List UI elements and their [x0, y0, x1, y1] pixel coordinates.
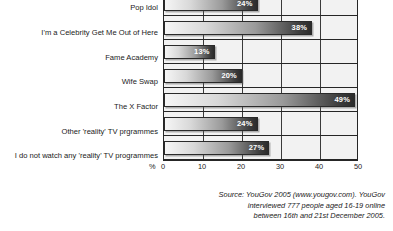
- source-note-line-1: Source: YouGov 2005 (www.yougov.com). Yo…: [155, 190, 385, 201]
- source-note-line-2: interviewed 777 people aged 16-19 online: [155, 201, 385, 212]
- x-tick-0: 0: [161, 163, 165, 170]
- category-label-fame-academy: Fame Academy: [105, 54, 158, 62]
- axis-unit-label: %: [149, 163, 156, 170]
- bar-value-other-reality-tv: 24%: [237, 120, 257, 128]
- bar-other-reality-tv: 24%: [164, 117, 258, 131]
- bar-im-a-celebrity: 38%: [164, 21, 312, 35]
- bar-the-x-factor: 49%: [164, 93, 355, 107]
- category-label-pop-idol: Pop Idol: [130, 4, 158, 12]
- category-label-the-x-factor: The X Factor: [114, 103, 158, 111]
- bar-wife-swap: 20%: [164, 69, 242, 83]
- row-separator: [164, 135, 357, 136]
- bar-value-fame-academy: 13%: [194, 48, 214, 56]
- source-note-line-3: between 16th and 21st December 2005.: [155, 211, 385, 222]
- category-label-wife-swap: Wife Swap: [122, 78, 158, 86]
- x-tick-50: 50: [354, 163, 362, 170]
- row-separator: [164, 87, 357, 88]
- row-separator: [164, 63, 357, 64]
- category-axis: Pop Idol I'm a Celebrity Get Me Out of H…: [0, 0, 163, 169]
- bar-do-not-watch: 27%: [164, 141, 269, 155]
- bar-fame-academy: 13%: [164, 45, 215, 59]
- x-tick-10: 10: [198, 163, 206, 170]
- source-note: Source: YouGov 2005 (www.yougov.com). Yo…: [155, 190, 385, 222]
- row-separator: [164, 15, 357, 16]
- bar-pop-idol: 24%: [164, 0, 258, 11]
- row-separator: [164, 111, 357, 112]
- bar-value-the-x-factor: 49%: [334, 96, 354, 104]
- bar-value-pop-idol: 24%: [237, 0, 257, 8]
- category-label-do-not-watch: I do not watch any 'reality' TV programm…: [15, 152, 158, 160]
- plot-area: 24% 38% 13% 20% 49% 24% 27%: [163, 0, 358, 161]
- category-label-im-a-celebrity: I'm a Celebrity Get Me Out of Here: [41, 29, 158, 37]
- x-tick-30: 30: [276, 163, 284, 170]
- bar-value-wife-swap: 20%: [221, 72, 241, 80]
- bar-value-do-not-watch: 27%: [249, 144, 269, 152]
- bar-chart: Pop Idol I'm a Celebrity Get Me Out of H…: [0, 0, 393, 231]
- x-tick-20: 20: [237, 163, 245, 170]
- x-axis: 0 10 20 30 40 50: [163, 163, 358, 177]
- x-tick-40: 40: [315, 163, 323, 170]
- gridline-40: [320, 0, 321, 160]
- row-separator: [164, 39, 357, 40]
- category-label-other-reality-tv: Other 'reality' TV prgrammes: [62, 128, 158, 136]
- row-separator: [164, 159, 357, 160]
- bar-value-im-a-celebrity: 38%: [292, 24, 312, 32]
